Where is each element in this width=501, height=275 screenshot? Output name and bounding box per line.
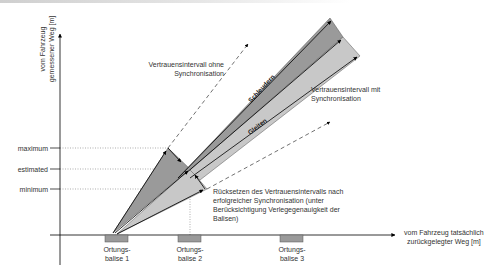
level-maximum: maximum bbox=[10, 144, 48, 153]
balises bbox=[105, 235, 303, 242]
annotation-with-sync: Vertrauensintervall mit Synchronisation bbox=[311, 85, 380, 103]
y-axis-label: vom Fahrzeug gemessener Weg [m] bbox=[38, 14, 56, 84]
level-minimum: minimum bbox=[10, 185, 48, 194]
annotation-reset: Rücksetzen des Vertrauensintervalls nach… bbox=[213, 187, 343, 223]
level-estimated: estimated bbox=[10, 165, 48, 174]
balise-3-label: Ortungs- balise 3 bbox=[277, 245, 307, 263]
annotation-without-sync: Vertrauensintervall ohne Synchronisation bbox=[140, 60, 224, 78]
balise-2-label: Ortungs- balise 2 bbox=[175, 245, 205, 263]
x-axis-label: vom Fahrzeug tatsächlich zurückgelegter … bbox=[404, 228, 484, 246]
balise-1-label: Ortungs- balise 1 bbox=[102, 245, 132, 263]
